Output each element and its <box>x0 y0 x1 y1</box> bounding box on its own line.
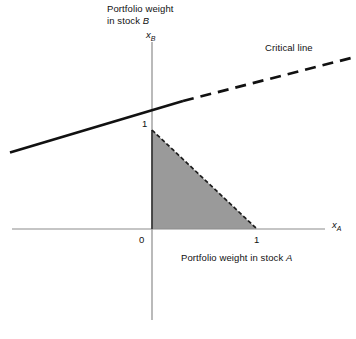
x-axis-caption-symbol: A <box>286 252 292 263</box>
y-axis-caption-line-2-prefix: in stock <box>107 15 143 26</box>
y-axis-caption-line-1: Portfolio weight <box>107 3 174 15</box>
y-axis-caption-line-2: in stock B <box>107 15 174 27</box>
x-axis-caption: Portfolio weight in stock A <box>181 252 292 264</box>
critical-line-annotation: Critical line <box>265 42 313 54</box>
x-axis-symbol-subscript: A <box>337 225 342 232</box>
x-axis-caption-prefix: Portfolio weight in stock <box>181 252 286 263</box>
y-axis-caption: Portfolio weight in stock B <box>107 3 174 27</box>
x-tick-label-0: 0 <box>139 234 144 246</box>
y-axis-caption-symbol: B <box>143 15 149 26</box>
y-axis-symbol-label: xB <box>146 29 155 44</box>
critical-line-dashed-segment <box>183 58 351 101</box>
y-axis-symbol-subscript: B <box>151 35 156 42</box>
y-tick-label-1: 1 <box>142 118 147 130</box>
chart-figure: Portfolio weight in stock B xB xA Critic… <box>0 0 356 339</box>
x-tick-label-1: 1 <box>254 234 259 246</box>
x-axis-symbol-label: xA <box>332 219 341 234</box>
